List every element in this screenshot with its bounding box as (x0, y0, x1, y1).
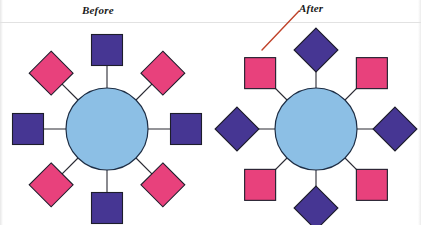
node-before-w-square[interactable] (13, 114, 44, 145)
node-hub-diagram (0, 0, 421, 225)
panel-before (13, 35, 202, 224)
node-before-n-square[interactable] (92, 35, 123, 66)
node-after-e-diamond[interactable] (373, 107, 417, 151)
after-leader-line (262, 11, 299, 50)
node-before-s-square[interactable] (92, 193, 123, 224)
node-after-w-diamond[interactable] (215, 107, 259, 151)
node-after-ne-square[interactable] (356, 58, 387, 89)
node-after-n-diamond[interactable] (294, 28, 338, 72)
node-before-e-square[interactable] (171, 114, 202, 145)
hub-circle-after[interactable] (275, 88, 357, 170)
figure-canvas: Before After (0, 0, 421, 225)
node-after-s-diamond[interactable] (294, 186, 338, 225)
hub-circle-before[interactable] (66, 88, 148, 170)
panel-after (215, 28, 417, 225)
node-after-sw-square[interactable] (245, 169, 276, 200)
node-after-se-square[interactable] (356, 169, 387, 200)
node-after-nw-square[interactable] (245, 58, 276, 89)
after-leader-line-annotation (262, 11, 299, 50)
